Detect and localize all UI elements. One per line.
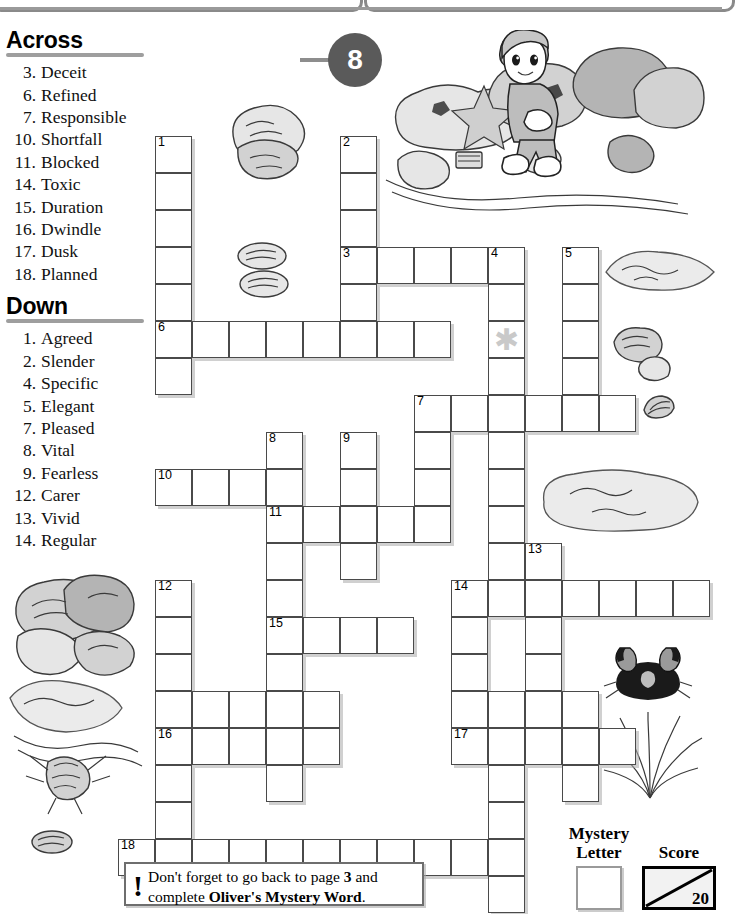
grid-cell[interactable] — [488, 728, 525, 765]
grid-cell[interactable] — [451, 654, 488, 691]
grid-cell-numbered-10[interactable]: 10 — [155, 469, 192, 506]
score-box[interactable]: 20 — [642, 866, 716, 910]
grid-cell[interactable] — [340, 284, 377, 321]
grid-cell[interactable] — [266, 765, 303, 802]
grid-cell[interactable] — [599, 728, 636, 765]
grid-cell[interactable] — [414, 506, 451, 543]
grid-cell[interactable] — [303, 617, 340, 654]
grid-cell[interactable] — [488, 321, 525, 358]
mystery-letter-input-box[interactable] — [576, 866, 622, 910]
grid-cell[interactable] — [266, 321, 303, 358]
grid-cell[interactable] — [303, 321, 340, 358]
grid-cell[interactable] — [562, 284, 599, 321]
grid-cell[interactable] — [303, 691, 340, 728]
grid-cell[interactable] — [303, 506, 340, 543]
grid-cell[interactable] — [340, 173, 377, 210]
grid-cell-numbered-3[interactable]: 3 — [340, 247, 377, 284]
grid-cell-numbered-1[interactable]: 1 — [155, 136, 192, 173]
grid-cell[interactable] — [155, 765, 192, 802]
grid-cell[interactable] — [155, 210, 192, 247]
grid-cell[interactable] — [599, 395, 636, 432]
grid-cell[interactable] — [340, 543, 377, 580]
grid-cell[interactable] — [636, 580, 673, 617]
grid-cell[interactable] — [155, 247, 192, 284]
grid-cell-numbered-16[interactable]: 16 — [155, 728, 192, 765]
grid-cell-numbered-9[interactable]: 9 — [340, 432, 377, 469]
grid-cell[interactable] — [488, 839, 525, 876]
grid-cell[interactable] — [488, 395, 525, 432]
grid-cell[interactable] — [451, 395, 488, 432]
grid-cell[interactable] — [451, 691, 488, 728]
grid-cell[interactable] — [229, 469, 266, 506]
grid-cell[interactable] — [525, 691, 562, 728]
grid-cell[interactable] — [673, 580, 710, 617]
grid-cell-numbered-15[interactable]: 15 — [266, 617, 303, 654]
grid-cell[interactable] — [155, 617, 192, 654]
grid-cell[interactable] — [414, 469, 451, 506]
grid-cell[interactable] — [562, 395, 599, 432]
grid-cell-numbered-14[interactable]: 14 — [451, 580, 488, 617]
grid-cell[interactable] — [192, 321, 229, 358]
grid-cell[interactable] — [562, 321, 599, 358]
grid-cell[interactable] — [192, 691, 229, 728]
grid-cell-numbered-8[interactable]: 8 — [266, 432, 303, 469]
grid-cell[interactable] — [414, 247, 451, 284]
grid-cell[interactable] — [266, 580, 303, 617]
grid-cell[interactable] — [192, 728, 229, 765]
grid-cell[interactable] — [340, 617, 377, 654]
grid-cell[interactable] — [303, 728, 340, 765]
grid-cell-numbered-12[interactable]: 12 — [155, 580, 192, 617]
grid-cell[interactable] — [266, 728, 303, 765]
grid-cell[interactable] — [599, 580, 636, 617]
grid-cell[interactable] — [266, 654, 303, 691]
grid-cell[interactable] — [525, 395, 562, 432]
grid-cell[interactable] — [340, 210, 377, 247]
grid-cell[interactable] — [155, 173, 192, 210]
grid-cell[interactable] — [229, 728, 266, 765]
grid-cell[interactable] — [488, 580, 525, 617]
grid-cell[interactable] — [155, 691, 192, 728]
grid-cell-numbered-2[interactable]: 2 — [340, 136, 377, 173]
crossword-grid[interactable]: 162345789101113121415161718 — [118, 136, 598, 836]
grid-cell-numbered-4[interactable]: 4 — [488, 247, 525, 284]
grid-cell[interactable] — [488, 765, 525, 802]
grid-cell[interactable] — [488, 691, 525, 728]
grid-cell[interactable] — [377, 321, 414, 358]
grid-cell[interactable] — [377, 506, 414, 543]
grid-cell[interactable] — [155, 802, 192, 839]
grid-cell[interactable] — [414, 321, 451, 358]
grid-cell[interactable] — [525, 580, 562, 617]
grid-cell[interactable] — [155, 654, 192, 691]
grid-cell[interactable] — [525, 617, 562, 654]
grid-cell[interactable] — [488, 358, 525, 395]
grid-cell[interactable] — [155, 284, 192, 321]
grid-cell[interactable] — [488, 284, 525, 321]
grid-cell[interactable] — [562, 691, 599, 728]
grid-cell[interactable] — [525, 728, 562, 765]
grid-cell[interactable] — [562, 728, 599, 765]
grid-cell[interactable] — [488, 506, 525, 543]
grid-cell[interactable] — [266, 469, 303, 506]
grid-cell[interactable] — [266, 691, 303, 728]
grid-cell[interactable] — [488, 876, 525, 913]
grid-cell[interactable] — [488, 469, 525, 506]
grid-cell[interactable] — [229, 691, 266, 728]
grid-cell[interactable] — [377, 617, 414, 654]
grid-cell-numbered-5[interactable]: 5 — [562, 247, 599, 284]
grid-cell[interactable] — [155, 358, 192, 395]
grid-cell-numbered-11[interactable]: 11 — [266, 506, 303, 543]
grid-cell-numbered-17[interactable]: 17 — [451, 728, 488, 765]
grid-cell[interactable] — [377, 247, 414, 284]
grid-cell[interactable] — [488, 432, 525, 469]
grid-cell[interactable] — [562, 580, 599, 617]
grid-cell[interactable] — [266, 543, 303, 580]
grid-cell[interactable] — [488, 543, 525, 580]
grid-cell-numbered-6[interactable]: 6 — [155, 321, 192, 358]
grid-cell-numbered-7[interactable]: 7 — [414, 395, 451, 432]
grid-cell[interactable] — [451, 247, 488, 284]
grid-cell[interactable] — [340, 469, 377, 506]
grid-cell[interactable] — [192, 469, 229, 506]
grid-cell-numbered-13[interactable]: 13 — [525, 543, 562, 580]
grid-cell[interactable] — [525, 654, 562, 691]
grid-cell[interactable] — [488, 802, 525, 839]
